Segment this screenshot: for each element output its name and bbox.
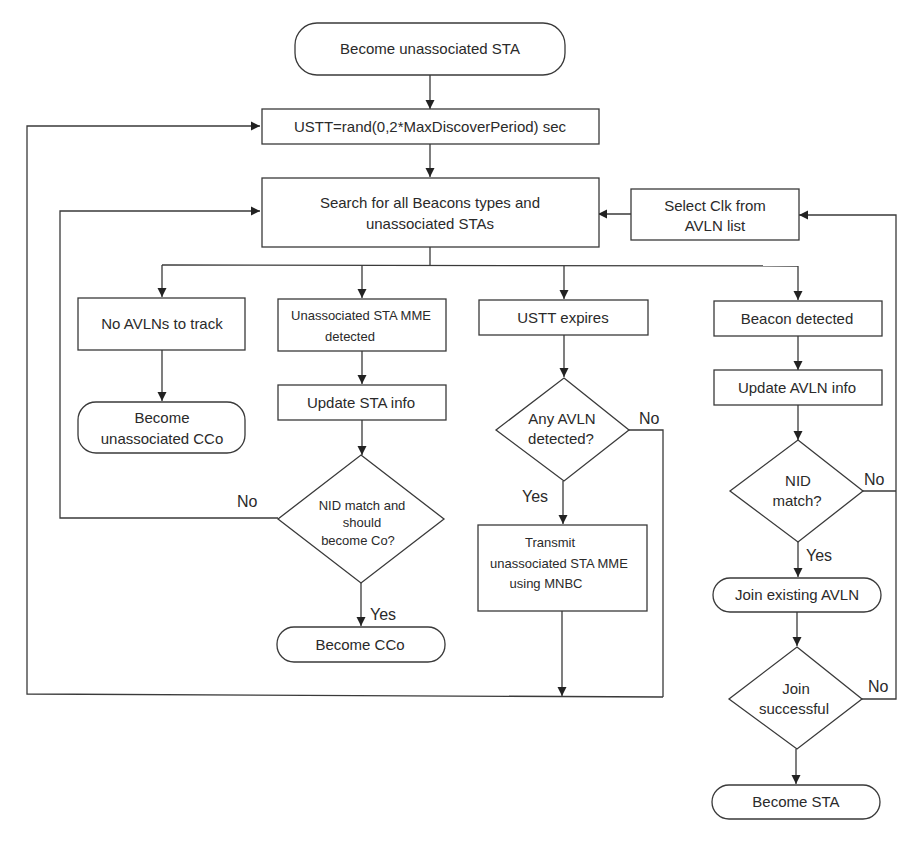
node-update-avln: Update AVLN info xyxy=(714,370,882,405)
edge-label-nid-yes: Yes xyxy=(806,547,832,564)
node-join-existing: Join existing AVLN xyxy=(713,578,881,612)
edge-label-nidco-no: No xyxy=(237,493,258,510)
node-unassoc-mme: Unassociated STA MME detected xyxy=(278,299,446,351)
node-search-label-1: Search for all Beacons types and xyxy=(320,194,540,211)
node-any-avln-label-2: detected? xyxy=(528,430,594,447)
node-unassoc-mme-label-2: detected xyxy=(325,329,375,344)
node-beacon-label: Beacon detected xyxy=(741,310,854,327)
node-update-avln-label: Update AVLN info xyxy=(738,379,856,396)
edge-nidco-no-search xyxy=(60,211,278,518)
edge-label-nid-no: No xyxy=(864,471,885,488)
node-nid-match-label-2: match? xyxy=(772,492,821,509)
node-join-success: Join successful xyxy=(729,647,862,749)
node-start-label: Become unassociated STA xyxy=(340,40,520,57)
node-no-avlns: No AVLNs to track xyxy=(78,298,245,350)
node-become-sta-label: Become STA xyxy=(752,793,839,810)
node-join-success-label-2: successful xyxy=(759,700,829,717)
node-become-uncco: Become unassociated CCo xyxy=(78,402,245,453)
node-update-sta: Update STA info xyxy=(278,385,446,420)
node-nid-match-co-label-1: NID match and xyxy=(319,498,406,513)
node-join-success-label-1: Join xyxy=(782,680,810,697)
node-unassoc-mme-label-1: Unassociated STA MME xyxy=(291,308,431,323)
node-start: Become unassociated STA xyxy=(295,23,565,75)
node-transmit-label-3: using MNBC xyxy=(510,576,583,591)
flowchart-diagram: Become unassociated STA USTT=rand(0,2*Ma… xyxy=(0,0,918,841)
node-search-label-2: unassociated STAs xyxy=(366,215,494,232)
node-nid-match-label-1: NID xyxy=(785,472,811,489)
split-bus xyxy=(162,265,798,266)
node-no-avlns-label: No AVLNs to track xyxy=(101,315,223,332)
node-ustt-label: USTT=rand(0,2*MaxDiscoverPeriod) sec xyxy=(294,118,567,135)
node-join-existing-label: Join existing AVLN xyxy=(735,586,859,603)
node-become-cco: Become CCo xyxy=(277,627,445,662)
node-become-uncco-label-2: unassociated CCo xyxy=(101,430,224,447)
node-nid-match: NID match? xyxy=(730,440,863,542)
node-become-uncco-label-1: Become xyxy=(134,409,189,426)
node-beacon: Beacon detected xyxy=(714,301,882,336)
edge-label-anyavln-yes: Yes xyxy=(522,488,548,505)
node-any-avln-label-1: Any AVLN xyxy=(528,410,595,427)
node-nid-match-co: NID match and should become Co? xyxy=(278,455,444,583)
edge-label-nidco-yes: Yes xyxy=(370,606,396,623)
node-select-clk: Select Clk from AVLN list xyxy=(631,189,799,240)
edge-label-join-no: No xyxy=(868,678,889,695)
node-become-cco-label: Become CCo xyxy=(315,636,404,653)
node-ustt: USTT=rand(0,2*MaxDiscoverPeriod) sec xyxy=(262,109,599,144)
node-any-avln: Any AVLN detected? xyxy=(496,378,629,481)
node-select-clk-label-1: Select Clk from xyxy=(664,197,766,214)
edge-label-anyavln-no: No xyxy=(639,410,660,427)
node-become-sta: Become STA xyxy=(712,785,880,819)
node-transmit-label-1: Transmit xyxy=(525,535,575,550)
node-nid-match-co-label-2: should xyxy=(343,515,381,530)
node-search: Search for all Beacons types and unassoc… xyxy=(262,178,599,247)
node-update-sta-label: Update STA info xyxy=(307,394,415,411)
node-ustt-expires: USTT expires xyxy=(479,300,648,335)
node-transmit-label-2: unassociated STA MME xyxy=(490,556,628,571)
node-transmit: Transmit unassociated STA MME using MNBC xyxy=(478,525,647,611)
node-nid-match-co-label-3: become Co? xyxy=(321,533,395,548)
node-select-clk-label-2: AVLN list xyxy=(685,217,746,234)
node-ustt-expires-label: USTT expires xyxy=(517,309,608,326)
